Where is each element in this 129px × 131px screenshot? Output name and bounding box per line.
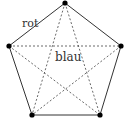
vertex-top bbox=[62, 0, 67, 5]
label-rot: rot bbox=[22, 17, 39, 30]
vertex-right bbox=[118, 43, 123, 48]
edge-top-right bbox=[65, 3, 121, 46]
k5-graph-diagram: rot blau bbox=[0, 0, 129, 131]
edge-bottomleft-left bbox=[9, 46, 32, 115]
label-blau: blau bbox=[55, 50, 82, 64]
graph-svg: rot blau bbox=[0, 0, 129, 131]
vertex-bottom-right bbox=[97, 112, 102, 117]
vertex-left bbox=[6, 43, 11, 48]
edge-right-bottomright bbox=[100, 46, 121, 115]
vertex-bottom-left bbox=[29, 112, 34, 117]
